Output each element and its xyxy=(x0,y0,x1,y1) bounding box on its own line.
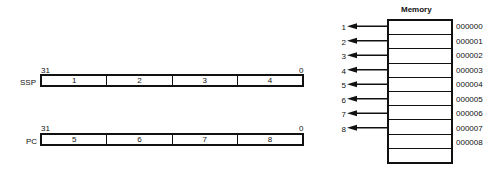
arrowhead-icon xyxy=(347,81,357,87)
arrowhead-icon xyxy=(347,110,357,116)
arrowhead-icon xyxy=(347,23,357,29)
arrowhead-icon xyxy=(347,125,357,131)
arrowhead-icon xyxy=(347,96,357,102)
arrowhead-icon xyxy=(347,38,357,44)
arrowhead-icon xyxy=(347,52,357,58)
arrowhead-icon xyxy=(347,67,357,73)
pointer-arrows xyxy=(0,0,490,169)
